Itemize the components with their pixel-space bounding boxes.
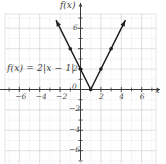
x-tick-label: −4 [36, 92, 47, 101]
x-tick-label: 4 [119, 92, 124, 101]
y-tick-label: −6 [69, 145, 80, 154]
y-tick-label: −2 [69, 104, 80, 113]
graph-figure: f(x) = 2|x − 1| f(x) x −6−4−20246−6−4−22… [0, 0, 166, 164]
x-tick-label: 0 [72, 82, 77, 91]
x-tick-label: 2 [99, 92, 104, 101]
axis-lines [0, 3, 160, 160]
y-tick-label: 6 [73, 23, 78, 32]
equation-label: f(x) = 2|x − 1| [7, 63, 75, 73]
y-tick-label: −4 [69, 125, 80, 134]
x-tick-label: −6 [15, 92, 26, 101]
coordinate-plane [0, 0, 166, 164]
y-tick-label: 2 [73, 64, 78, 73]
x-tick-label: −2 [56, 92, 67, 101]
x-tick-label: 6 [140, 92, 145, 101]
x-axis-label: x [155, 86, 160, 95]
y-axis-label: f(x) [60, 0, 75, 10]
